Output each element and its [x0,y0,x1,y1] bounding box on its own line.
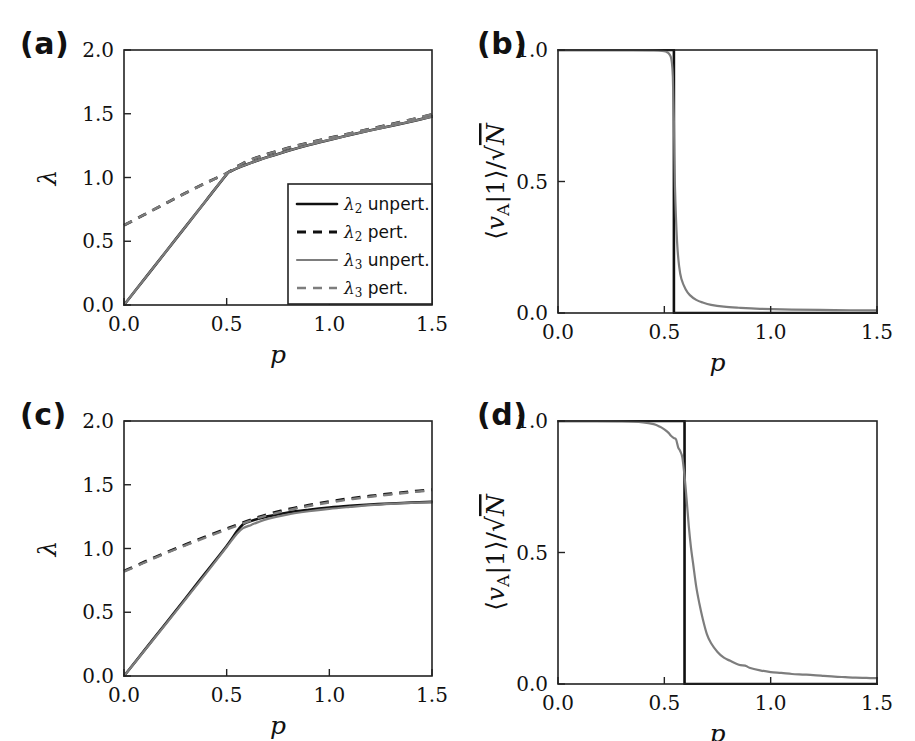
legend[interactable]: λ2 unpert.λ2 pert.λ3 unpert.λ3 pert. [288,184,432,304]
panel-c: (c) 0.00.51.01.50.00.51.01.52.0pλ [0,371,460,741]
y-tick-label: 2.0 [82,38,114,62]
figure-root: (a) 0.00.51.01.50.00.51.01.52.0pλλ2 unpe… [0,0,915,741]
x-tick-label: 1.5 [861,691,893,715]
y-tick-label: 1.0 [82,537,114,561]
y-tick-label: 0.0 [516,672,548,696]
y-tick-label: 0.0 [516,301,548,325]
x-tick-label: 1.0 [755,691,787,715]
panel-c-label: (c) [20,397,67,432]
curve-2 [124,490,432,571]
y-axis-title: ⟨vA|1⟩/√N [481,122,513,240]
plot-frame [558,421,877,684]
legend-item-label[interactable]: λ2 pert. [343,222,408,244]
plot-frame [558,50,877,313]
y-tick-label: 0.5 [82,600,114,624]
x-tick-label: 1.0 [755,320,787,344]
curve-1 [558,50,877,313]
panel-b: (b) 0.00.51.01.50.00.51.0p⟨vA|1⟩/√N [455,0,915,370]
svg-text:⟨vA|1⟩/√N: ⟨vA|1⟩/√N [481,493,513,611]
y-axis-title: λ [33,170,62,187]
x-axis-title: p [709,719,725,741]
y-tick-label: 1.5 [82,473,114,497]
y-tick-label: 0.0 [82,664,114,688]
y-tick-label: 0.5 [516,170,548,194]
y-tick-label: 1.5 [82,102,114,126]
panel-a: (a) 0.00.51.01.50.00.51.01.52.0pλλ2 unpe… [0,0,460,370]
panel-d-label: (d) [477,397,527,432]
curve-1 [558,421,877,684]
x-tick-label: 1.5 [861,320,893,344]
y-tick-label: 1.0 [82,166,114,190]
x-tick-label: 0.5 [211,683,243,707]
x-tick-label: 0.5 [211,312,243,336]
curve-2 [558,50,877,310]
y-tick-label: 0.5 [516,541,548,565]
panel-c-plot: 0.00.51.01.50.00.51.01.52.0pλ [0,371,460,741]
x-tick-label: 0.5 [648,691,680,715]
x-axis-title: p [270,711,286,740]
panel-d: (d) 0.00.51.01.50.00.51.0p⟨vA|1⟩/√N [455,371,915,741]
y-tick-label: 0.5 [82,229,114,253]
x-tick-label: 0.5 [648,320,680,344]
y-axis-title: ⟨vA|1⟩/√N [481,493,513,611]
curve-2 [558,421,877,678]
y-tick-label: 2.0 [82,409,114,433]
x-axis-title: p [270,340,286,369]
x-tick-label: 1.5 [416,683,448,707]
y-tick-label: 0.0 [82,293,114,317]
svg-text:⟨vA|1⟩/√N: ⟨vA|1⟩/√N [481,122,513,240]
x-tick-label: 1.0 [313,683,345,707]
legend-item-label[interactable]: λ3 pert. [343,278,408,300]
y-axis-title: λ [33,541,62,558]
panel-a-label: (a) [20,26,69,61]
curve-3 [124,502,432,676]
panel-b-label: (b) [477,26,527,61]
x-tick-label: 1.0 [313,312,345,336]
curve-1 [124,502,432,676]
plot-frame [124,421,432,676]
x-tick-label: 1.5 [416,312,448,336]
